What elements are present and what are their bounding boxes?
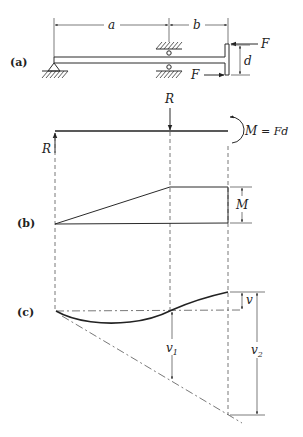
beam-diagram: (a) a b [0, 0, 303, 437]
moment-arc-arrow [230, 117, 244, 143]
moment-equation: = Fd [261, 125, 288, 138]
panel-c-label: (c) [17, 306, 34, 319]
dim-d-label: d [244, 54, 252, 68]
tangent-line [62, 316, 242, 423]
beam [54, 44, 229, 75]
free-body-diagram: R R M = Fd [41, 92, 288, 156]
panel-b: (b) M [17, 187, 252, 230]
dim-v2-label: v2 [251, 343, 263, 359]
deflection-curve [56, 292, 228, 323]
moment-label: M [244, 124, 258, 138]
panel-b-label: (b) [17, 217, 35, 230]
dim-v-label: v [246, 293, 253, 307]
force-top-label: F [260, 37, 270, 51]
dim-a-label: a [108, 18, 115, 32]
force-bottom: F [190, 68, 224, 82]
roller-top [167, 51, 171, 55]
end-bracket [225, 44, 229, 75]
dim-b-label: b [193, 18, 201, 32]
reaction-top-label: R [164, 92, 174, 106]
roller-guide-support [156, 42, 182, 78]
force-top: F [231, 37, 270, 51]
moment-diagram-shape [55, 187, 228, 224]
roller-bottom [167, 65, 171, 69]
guide-bottom-hatch [156, 71, 182, 78]
dim-v1-label: v1 [166, 341, 178, 357]
dimension-d: d [231, 45, 252, 75]
pin-support [42, 63, 68, 78]
panel-a: (a) a b [10, 18, 270, 82]
dim-m-label: M [235, 198, 249, 212]
ground-hatch-left [42, 71, 68, 78]
force-bottom-label: F [190, 68, 200, 82]
pin-triangle [48, 63, 60, 71]
reaction-left-label: R [41, 142, 51, 156]
dimension-a-b: a b [54, 18, 228, 57]
projection-lines [55, 132, 228, 415]
panel-a-label: (a) [10, 56, 28, 69]
deflection-baseline [56, 310, 240, 311]
guide-top-hatch [156, 42, 182, 49]
